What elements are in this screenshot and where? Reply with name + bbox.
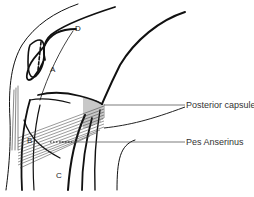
tibia-line-2 (33, 105, 40, 190)
patella (28, 40, 44, 77)
femur-condyle (102, 12, 185, 104)
label-b: B (27, 137, 32, 145)
callout-posterior-capsule: Posterior capsule (186, 101, 254, 110)
label-a: A (50, 66, 55, 74)
label-c: C (56, 172, 62, 180)
thigh-outline (6, 4, 78, 190)
label-d: D (75, 25, 81, 33)
line-a-d (40, 31, 73, 100)
callout-pes-anserinus: Pes Anserinus (186, 138, 244, 147)
joint-line (38, 93, 102, 104)
calf-outline (117, 140, 135, 190)
fibula (95, 110, 100, 190)
joint-line-2 (30, 99, 70, 103)
posterior-capsule-leader-2 (104, 107, 185, 128)
knee-diagram (0, 0, 254, 197)
